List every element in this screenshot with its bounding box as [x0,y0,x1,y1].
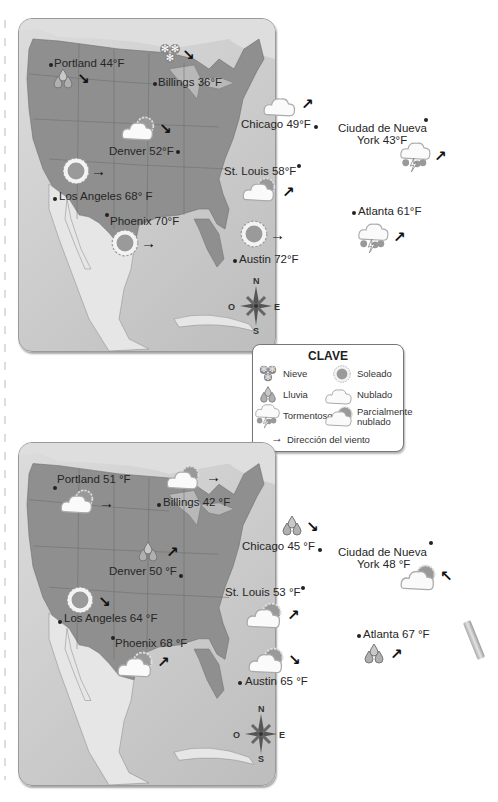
map-2-overlay: Portland 51 °F → → Billings 42 °F ↗ Denv… [0,0,498,802]
partly-cloudy-icon [246,646,286,674]
compass-rose-2: N S E O [239,706,283,762]
wind-arrow-billings: → [206,469,221,484]
city-dot-new-york [429,541,433,545]
wind-arrow-los-angeles: ↘ [98,594,111,609]
city-dot-chicago [318,548,322,552]
city-dot-billings [157,503,161,507]
city-dot-denver [179,574,183,578]
city-label-st-louis: St. Louis 53 °F [225,586,301,598]
city-label-billings: Billings 42 °F [163,496,230,508]
city-label-new-york-line1: Ciudad de Nueva [338,546,427,558]
city-label-denver: Denver 50 °F [109,565,177,577]
wind-arrow-portland: → [99,495,114,510]
compass-east-label: E [279,730,285,740]
city-dot-austin [238,681,242,685]
city-dot-atlanta [357,634,361,638]
city-label-chicago: Chicago 45 °F [242,540,315,552]
city-dot-st-louis [301,586,305,590]
wind-arrow-denver: ↗ [166,544,179,559]
compass-west-label: O [233,730,240,740]
compass-north-label: N [258,704,265,714]
partly-cloudy-icon [115,650,155,678]
partly-cloudy-icon [164,464,202,490]
sun-icon [66,586,94,614]
city-label-atlanta: Atlanta 67 °F [363,628,430,640]
city-dot-los-angeles [58,620,62,624]
rain-icon [138,540,160,562]
city-label-austin: Austin 65 °F [245,675,308,687]
partly-cloudy-icon [58,488,96,514]
city-label-portland: Portland 51 °F [57,473,131,485]
wind-arrow-austin: ↘ [288,652,301,667]
wind-arrow-new-york: ↖ [440,568,453,583]
wind-arrow-st-louis: ↗ [287,607,300,622]
city-label-los-angeles: Los Angeles 64 °F [64,612,157,624]
rain-icon [282,514,304,536]
partly-cloudy-icon [398,563,438,591]
wind-arrow-chicago: ↘ [306,519,319,534]
city-dot-portland [53,486,57,490]
city-label-phoenix: Phoenix 68 °F [115,637,187,649]
rain-icon [364,642,386,664]
partly-cloudy-icon [244,601,284,629]
compass-south-label: S [258,754,264,764]
wind-arrow-atlanta: ↗ [390,646,403,661]
wind-arrow-phoenix: ↗ [157,654,170,669]
